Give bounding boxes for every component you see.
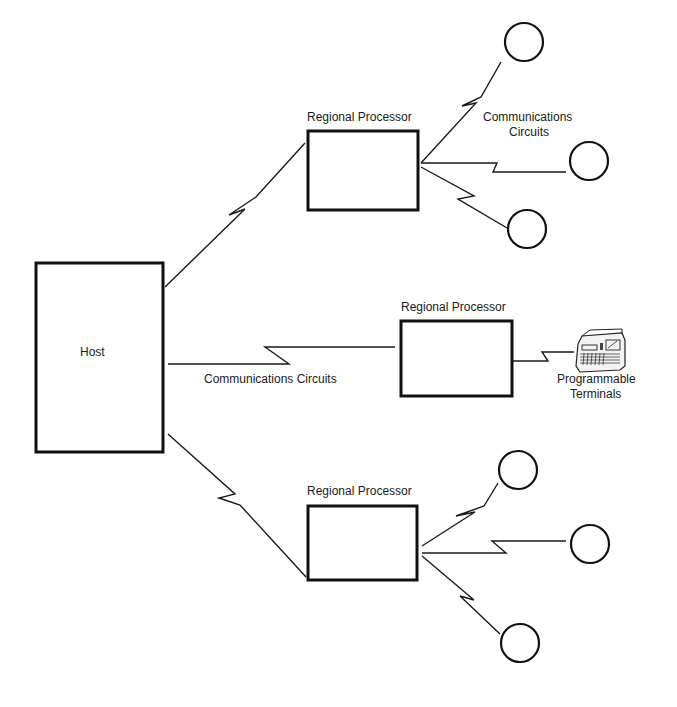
rp-middle-to-terminal-link [513,352,574,361]
rp-top-circuits-label-line2: Circuits [509,125,549,139]
rp-top-circuits-label-line1: Communications [483,110,572,124]
host-to-middle-rp-link [168,347,395,364]
host-link-circuits-label: Communications Circuits [204,372,337,386]
network-diagram: Host Communications Circuits Regional Pr… [0,0,677,707]
rp-bottom-link-3 [422,556,500,634]
programmable-terminal-icon [576,329,625,372]
rp-middle-box [401,321,512,396]
rp-top-link-3 [421,167,507,228]
host-to-top-rp-link [165,143,305,287]
host-to-bottom-rp-link [168,434,306,577]
rp-bottom-box [308,506,417,580]
terminal-node [508,210,546,248]
rp-bottom-link-1 [422,483,498,546]
rp-top-link-2 [421,163,566,172]
terminal-node [505,23,543,61]
rp-bottom-label: Regional Processor [307,484,412,498]
terminal-node [570,142,608,180]
rp-top-label: Regional Processor [307,110,412,124]
terminal-label-line2: Terminals [570,387,621,401]
terminal-node [499,451,537,489]
host-label: Host [80,345,105,359]
terminal-node [501,624,539,662]
rp-bottom-link-2 [422,541,566,553]
terminal-label-line1: Programmable [557,372,636,386]
terminal-node [571,525,609,563]
rp-middle-label: Regional Processor [401,300,506,314]
rp-top-box [308,131,418,210]
